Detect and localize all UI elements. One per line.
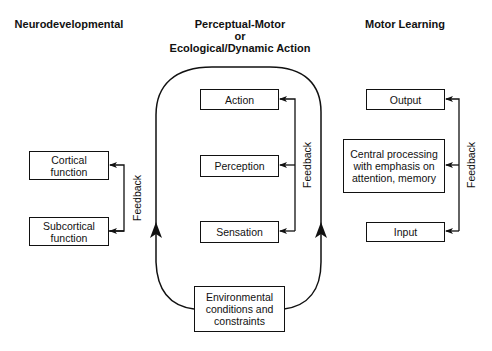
- output-box: Output: [366, 89, 445, 110]
- heading-perceptual-line3: Ecological/Dynamic Action: [160, 42, 320, 54]
- motor-feedback-label: Feedback: [465, 142, 477, 188]
- neuro-feedback-arrows: [109, 165, 124, 231]
- sensation-box: Sensation: [200, 221, 279, 243]
- input-box: Input: [366, 222, 445, 242]
- perception-box: Perception: [200, 155, 279, 177]
- neuro-feedback-label: Feedback: [131, 175, 143, 221]
- heading-perceptual-motor: Perceptual-Motor or Ecological/Dynamic A…: [160, 18, 320, 54]
- perceptual-feedback-label: Feedback: [301, 142, 313, 188]
- environmental-conditions-box: Environmental conditions and constraints: [194, 286, 285, 332]
- heading-perceptual-line2: or: [160, 30, 320, 42]
- cortical-function-box: Cortical function: [29, 151, 109, 180]
- motor-feedback-arrows: [446, 99, 459, 231]
- heading-motor-learning: Motor Learning: [355, 18, 455, 30]
- action-box: Action: [200, 89, 279, 110]
- central-processing-box: Central processing with emphasis on atte…: [343, 139, 445, 193]
- heading-neurodevelopmental: Neurodevelopmental: [14, 18, 124, 30]
- heading-perceptual-line1: Perceptual-Motor: [160, 18, 320, 30]
- subcortical-function-box: Subcortical function: [29, 217, 109, 246]
- perceptual-feedback-arrows: [280, 99, 295, 231]
